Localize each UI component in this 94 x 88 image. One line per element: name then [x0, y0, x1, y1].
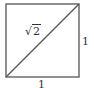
radicand: 2: [32, 24, 41, 38]
diagonal-length-label: √2: [25, 26, 41, 37]
radical-sign: √: [25, 25, 32, 38]
right-side-label: 1: [82, 36, 89, 47]
sqrt-expression: √2: [25, 26, 41, 37]
square-diagram: [0, 0, 94, 88]
diagonal-line: [6, 4, 79, 77]
bottom-side-label: 1: [38, 79, 45, 88]
